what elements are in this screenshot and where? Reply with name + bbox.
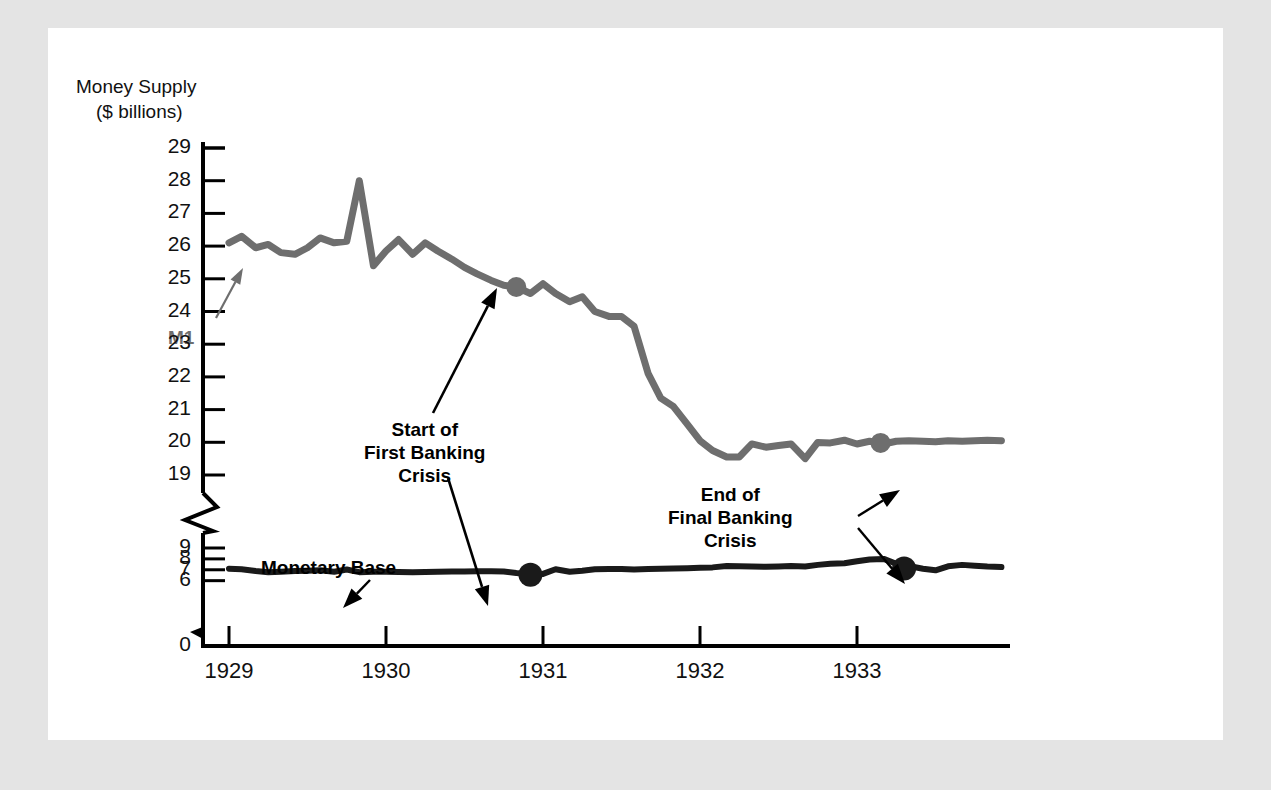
series-marker [871,433,891,453]
plot-area [48,28,1223,740]
y-axis-tick-label: 0 [147,632,191,656]
y-axis-tick-label: 23 [147,330,191,354]
y-axis-tick-label: 19 [147,461,191,485]
series-marker [518,563,542,587]
annotation-arrow-line [433,306,488,413]
annotation-end-final-banking-crisis: End ofFinal BankingCrisis [668,483,793,552]
series-line-m1 [229,181,1001,459]
money-supply-chart: Money Supply ($ billions) M1 Monetary Ba… [48,28,1223,740]
y-axis-title-line1: Money Supply [76,74,196,99]
y-axis-title-line2: ($ billions) [96,99,183,124]
annotation-arrow-head-m1 [231,268,243,285]
y-axis-tick-label: 20 [147,428,191,452]
series-layer [229,181,1001,587]
figure-panel: Money Supply ($ billions) M1 Monetary Ba… [48,28,1223,740]
annotation-arrow-line [858,501,883,516]
y-axis-tick-label: 24 [147,298,191,322]
y-axis-tick-label: 6 [147,567,191,591]
y-axis-tick-label: 25 [147,265,191,289]
x-axis-tick-label: 1929 [184,658,274,684]
x-axis-tick-label: 1930 [341,658,431,684]
series-label-monetary-base: Monetary Base [261,556,396,579]
y-axis-tick-label: 27 [147,199,191,223]
annotation-arrow-head [475,585,489,606]
y-axis-tick-label: 28 [147,167,191,191]
y-axis-tick-label: 26 [147,232,191,256]
x-axis-tick-label: 1933 [812,658,902,684]
annotation-arrow-line [357,580,370,594]
x-axis-tick-label: 1931 [498,658,588,684]
y-axis-tick-label: 29 [147,134,191,158]
annotation-start-first-banking-crisis: Start ofFirst BankingCrisis [364,418,485,487]
y-axis-tick-label: 22 [147,363,191,387]
annotation-arrow-head [481,288,497,309]
annotation-arrow-head [879,490,900,507]
series-marker [506,277,526,297]
annotation-arrow-line-m1 [216,282,235,318]
x-axis-tick-label: 1932 [655,658,745,684]
figure-frame: Money Supply ($ billions) M1 Monetary Ba… [0,0,1271,790]
y-axis-tick-label: 21 [147,396,191,420]
